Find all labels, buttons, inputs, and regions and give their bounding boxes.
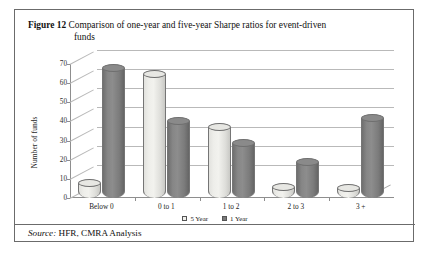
x-axis-labels: Below 00 to 11 to 22 to 33 + [70, 200, 402, 214]
y-axis-tick-mark [67, 198, 70, 199]
source-divider [15, 224, 415, 225]
depth-gridline [70, 51, 94, 65]
bar-body [361, 118, 384, 198]
x-axis-tick-label: 3 + [356, 202, 366, 211]
bar-body [296, 162, 319, 198]
legend-label: 5 Year [190, 215, 208, 222]
x-axis-tick-mark [264, 198, 265, 201]
x-axis-tick-label: 1 to 2 [223, 202, 240, 211]
x-axis-tick-mark [200, 198, 201, 201]
x-axis-tick-mark [135, 198, 136, 201]
x-axis-tick-label: Below 0 [89, 202, 114, 211]
bar-body [167, 121, 190, 198]
gridline [97, 50, 394, 51]
y-axis-tick-label: 40 [60, 117, 67, 125]
figure-frame: Figure 12 Comparison of one-year and fiv… [14, 9, 414, 242]
legend-swatch [222, 216, 227, 221]
bar-top-ellipse [361, 114, 384, 122]
bar-group [208, 64, 255, 198]
y-axis-tick-label: 10 [60, 175, 67, 183]
plot-area: 010203040506070 [70, 64, 402, 198]
bar-group [78, 64, 125, 198]
y-axis-tick-label: 60 [60, 79, 67, 87]
y-axis-tick-label: 70 [60, 60, 67, 68]
bar-body [208, 127, 231, 198]
chart: Number of funds 010203040506070 Below 00… [15, 50, 415, 202]
legend-swatch [182, 216, 187, 221]
figure-caption: Figure 12 Comparison of one-year and fiv… [28, 19, 400, 44]
legend-item: 5 Year [182, 215, 208, 222]
bar-top-ellipse [296, 158, 319, 166]
legend-item: 1 Year [222, 215, 248, 222]
bar-top-ellipse [232, 139, 255, 147]
chart-legend: 5 Year1 Year [15, 215, 415, 222]
bar-top-ellipse [78, 179, 101, 187]
figure-caption-line2: funds [28, 31, 400, 43]
legend-label: 1 Year [230, 215, 248, 222]
source-text: HFR, CMRA Analysis [59, 228, 142, 238]
bar-body [143, 74, 166, 198]
y-axis-tick-label: 30 [60, 137, 67, 145]
x-axis-tick-label: 0 to 1 [158, 202, 175, 211]
y-axis-tick-label: 20 [60, 156, 67, 164]
bar-top-ellipse [208, 123, 231, 131]
bar-group [143, 64, 190, 198]
bars-layer [70, 64, 402, 198]
bar-body [102, 68, 125, 198]
source-keyword: Source: [28, 228, 56, 238]
y-axis-title: Number of funds [30, 103, 39, 183]
figure-caption-line1: Comparison of one-year and five-year Sha… [68, 20, 326, 30]
x-axis-tick-mark [329, 198, 330, 201]
bar-top-ellipse [272, 183, 295, 191]
source-note: Source: HFR, CMRA Analysis [28, 228, 142, 238]
bar-body [232, 143, 255, 199]
y-axis-tick-label: 50 [60, 98, 67, 106]
bar-group [272, 64, 319, 198]
bar-top-ellipse [143, 70, 166, 78]
figure-label: Figure 12 [28, 20, 66, 30]
x-axis-tick-label: 2 to 3 [288, 202, 305, 211]
bar-group [337, 64, 384, 198]
bar-top-ellipse [102, 64, 125, 72]
